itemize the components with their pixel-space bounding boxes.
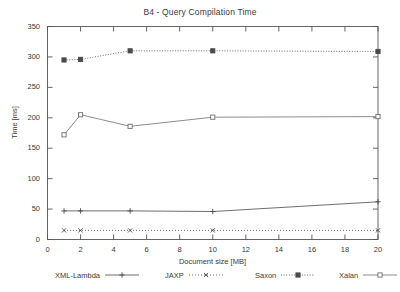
- legend-entry-jaxp[interactable]: JAXP: [165, 268, 224, 282]
- data-series-group: [61, 49, 380, 233]
- legend-sample-plus-icon: [104, 270, 140, 280]
- data-series: [61, 199, 380, 214]
- legend-label: Saxon: [255, 271, 276, 280]
- axis-ticks: [48, 27, 379, 240]
- legend-entry-saxon[interactable]: Saxon: [255, 268, 316, 282]
- chart-legend: XML-LambdaJAXPSaxonXalan: [47, 268, 378, 282]
- data-series: [62, 113, 380, 137]
- plot-frame: [48, 27, 379, 240]
- plot-area: [0, 0, 400, 292]
- legend-entry-xalan[interactable]: Xalan: [339, 268, 398, 282]
- chart-figure: B4 - Query Compilation Time Time [ms] Do…: [0, 0, 400, 292]
- data-series: [62, 49, 380, 62]
- legend-label: XML-Lambda: [55, 271, 100, 280]
- legend-sample-open-square-icon: [362, 270, 398, 280]
- legend-entry-xml-lambda[interactable]: XML-Lambda: [55, 268, 140, 282]
- data-series: [62, 228, 380, 232]
- legend-label: JAXP: [165, 271, 184, 280]
- legend-sample-cross-icon: [188, 270, 224, 280]
- legend-sample-filled-square-icon: [280, 270, 316, 280]
- legend-label: Xalan: [339, 271, 358, 280]
